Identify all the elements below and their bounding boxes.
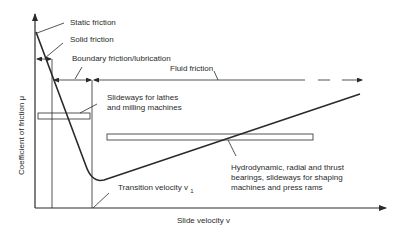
x-axis-label: Slide velocity v xyxy=(177,216,230,226)
label-boundary-friction: Boundary friction/lubrication xyxy=(72,54,171,64)
transition-subscript: 1 xyxy=(190,188,193,194)
stribeck-diagram xyxy=(0,0,399,237)
slideways-lathes-range xyxy=(38,113,90,119)
leader-hydro xyxy=(228,140,236,156)
label-transition-velocity: Transition velocity v 1 xyxy=(118,183,194,196)
leader-transition xyxy=(93,193,109,208)
hydro-line-1: Hydrodynamic, radial and thrust xyxy=(231,163,381,173)
label-static-friction: Static friction xyxy=(70,18,116,28)
hydro-line-3: machines and press rams xyxy=(231,183,381,193)
leader-solid xyxy=(45,43,63,58)
label-hydrodynamic: Hydrodynamic, radial and thrust bearings… xyxy=(231,163,381,193)
leader-boundary xyxy=(75,67,82,79)
hydro-line-2: bearings, slideways for shaping xyxy=(231,173,381,183)
transition-text: Transition velocity v xyxy=(118,183,188,192)
leader-fluid xyxy=(214,71,218,80)
slideways-line-2: and milling machines xyxy=(107,103,207,113)
label-fluid-friction: Fluid friction xyxy=(170,64,213,74)
hydrodynamic-range xyxy=(107,134,313,140)
slideways-line-1: Slideways for lathes xyxy=(107,93,207,103)
label-slideways-lathes: Slideways for lathes and milling machine… xyxy=(107,93,207,113)
leader-slideways xyxy=(80,104,97,113)
leader-static xyxy=(37,23,64,33)
label-solid-friction: Solid friction xyxy=(70,35,114,45)
y-axis-label: Coefficient of friction μ xyxy=(17,96,26,175)
